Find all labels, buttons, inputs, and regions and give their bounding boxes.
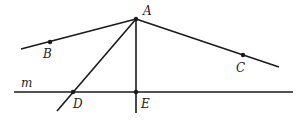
geometry-diagram: A B C D E m	[0, 0, 306, 122]
point-c	[241, 53, 245, 57]
point-e	[134, 90, 138, 94]
ray-ab	[21, 19, 136, 49]
point-a	[134, 17, 138, 21]
label-c: C	[236, 61, 245, 75]
ray-ac	[136, 19, 279, 67]
point-b	[48, 40, 52, 44]
label-d: D	[72, 97, 83, 111]
label-b: B	[42, 47, 52, 61]
label-a: A	[142, 4, 152, 18]
label-line-m: m	[21, 76, 32, 90]
label-e: E	[140, 97, 150, 111]
segment-ad	[57, 19, 136, 111]
point-d	[71, 90, 75, 94]
